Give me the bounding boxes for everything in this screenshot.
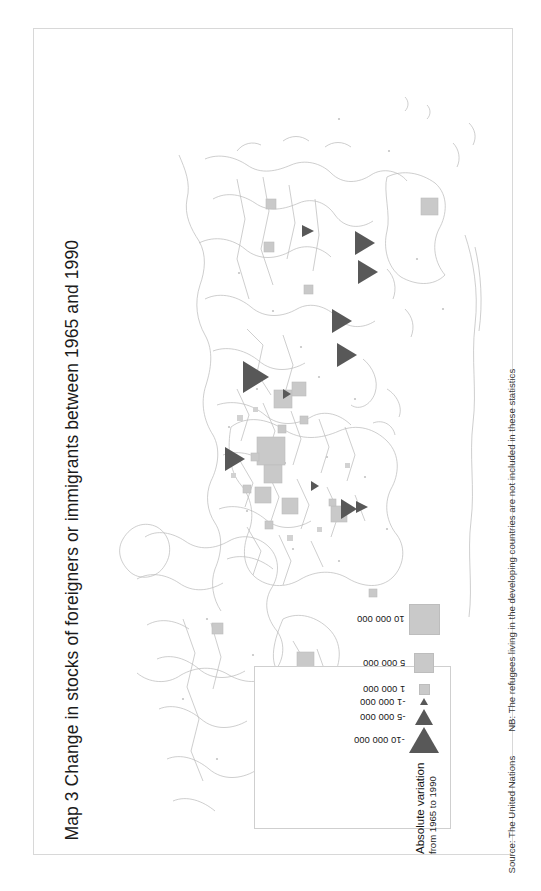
legend-swatch-triangle-small bbox=[409, 698, 439, 705]
legend-item-pos-5m: 5 000 000 bbox=[363, 653, 439, 673]
legend-heading-line2: from 1965 to 1990 bbox=[427, 763, 439, 854]
legend-label: 5 000 000 bbox=[363, 658, 405, 668]
legend-item-neg-10m: -10 000 000 bbox=[354, 727, 439, 753]
legend-label: 10 000 000 bbox=[357, 614, 405, 624]
legend-item-pos-1m: 1 000 000 bbox=[363, 684, 439, 695]
legend-label: -10 000 000 bbox=[354, 735, 405, 745]
legend-label: -5 000 000 bbox=[360, 712, 405, 722]
legend-swatch-triangle-large bbox=[409, 727, 439, 753]
legend-items: -10 000 000 -5 000 000 -1 000 000 1 000 … bbox=[354, 604, 441, 753]
legend-swatch-triangle-medium bbox=[409, 709, 439, 725]
legend-swatch-square-medium bbox=[409, 653, 439, 673]
legend-item-neg-5m: -5 000 000 bbox=[360, 709, 439, 725]
legend-heading-line1: Absolute variation bbox=[414, 763, 427, 854]
legend-label: 1 000 000 bbox=[363, 684, 405, 694]
legend-item-pos-10m: 10 000 000 bbox=[357, 604, 439, 635]
map-marker-layer-negative bbox=[225, 225, 435, 619]
map-page-frame: Map 3 Change in stocks of foreigners or … bbox=[33, 28, 513, 855]
legend-swatch-square-small bbox=[409, 684, 439, 695]
legend-item-neg-1m: -1 000 000 bbox=[360, 697, 439, 707]
footer: Source: The United Nations NB: The refug… bbox=[506, 234, 517, 874]
legend-label: -1 000 000 bbox=[360, 697, 405, 707]
source-text: Source: The United Nations bbox=[506, 756, 517, 874]
legend: Absolute variation from 1965 to 1990 -10… bbox=[254, 666, 451, 829]
note-text: NB: The refugees living in the developin… bbox=[506, 369, 517, 732]
legend-swatch-square-large bbox=[409, 604, 439, 635]
legend-heading: Absolute variation from 1965 to 1990 bbox=[414, 763, 441, 854]
map-marker-layer-positive bbox=[212, 198, 438, 669]
page-title: Map 3 Change in stocks of foreigners or … bbox=[62, 51, 83, 841]
